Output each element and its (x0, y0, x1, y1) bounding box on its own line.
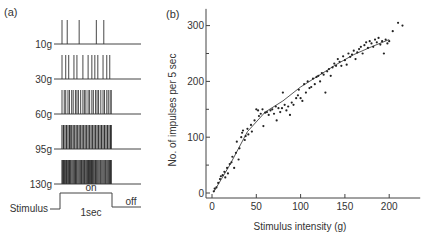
x-tick-label: 50 (251, 201, 263, 212)
data-point (376, 41, 378, 43)
data-point (330, 75, 332, 77)
data-point (385, 38, 387, 40)
x-axis-label: Stimulus intensity (g) (254, 221, 347, 232)
fit-line-group (214, 40, 389, 192)
scatter-points (213, 22, 404, 193)
data-point (370, 42, 372, 44)
data-point (282, 91, 284, 93)
data-point (314, 83, 316, 85)
data-point (369, 40, 371, 42)
data-point (337, 58, 339, 60)
data-point (298, 89, 300, 91)
data-point (261, 108, 263, 110)
data-point (237, 158, 239, 160)
data-point (360, 46, 362, 48)
data-point (333, 62, 335, 64)
data-point (223, 171, 225, 173)
data-point (246, 128, 248, 130)
data-point (236, 141, 238, 143)
data-point (379, 43, 381, 45)
data-point (268, 114, 270, 116)
data-point (312, 78, 314, 80)
data-point (271, 108, 273, 110)
data-point (335, 65, 337, 67)
data-point (297, 94, 299, 96)
data-point (305, 91, 307, 93)
data-point (291, 102, 293, 104)
data-point (319, 80, 321, 82)
panel-a-label: (a) (4, 6, 17, 18)
data-point (231, 156, 233, 158)
y-axis-label: No. of impulses per 5 sec (167, 54, 178, 167)
data-point (289, 114, 291, 116)
off-label: off (126, 196, 137, 207)
data-point (344, 59, 346, 61)
data-point (349, 56, 351, 58)
data-point (338, 61, 340, 63)
y-tick-label: 100 (187, 132, 204, 143)
data-point (230, 161, 232, 163)
data-point (279, 111, 281, 113)
spike-train-95g: 95g (35, 125, 141, 155)
train-label: 10g (35, 39, 52, 50)
data-point (273, 113, 275, 115)
data-point (277, 107, 279, 109)
fit-line (214, 40, 389, 192)
data-point (213, 190, 215, 192)
data-point (253, 119, 255, 121)
data-point (342, 55, 344, 57)
data-point (392, 30, 394, 32)
data-point (317, 75, 319, 77)
data-point (307, 80, 309, 82)
data-point (258, 115, 260, 117)
data-point (284, 104, 286, 106)
data-point (347, 52, 349, 54)
data-point (227, 172, 229, 174)
panel-b-label: (b) (166, 8, 179, 20)
on-label: on (85, 182, 96, 193)
data-point (326, 70, 328, 72)
data-point (300, 97, 302, 99)
data-point (303, 83, 305, 85)
spike-trains: 10g30g60g95g130g (30, 20, 141, 190)
train-label: 95g (35, 144, 52, 155)
data-point (372, 46, 374, 48)
data-point (295, 97, 297, 99)
data-point (386, 42, 388, 44)
y-tick-label: 200 (187, 76, 204, 87)
data-point (245, 135, 247, 137)
duration-label: 1sec (80, 207, 101, 218)
data-point (301, 100, 303, 102)
data-point (365, 41, 367, 43)
data-point (257, 109, 259, 111)
data-point (353, 50, 355, 52)
train-label: 60g (35, 109, 52, 120)
data-point (383, 52, 385, 54)
data-point (251, 131, 253, 133)
data-point (240, 136, 242, 138)
data-point (275, 105, 277, 107)
data-point (229, 163, 231, 165)
data-point (215, 186, 217, 188)
data-point (310, 86, 312, 88)
data-point (401, 25, 403, 27)
spike-train-10g: 10g (35, 20, 141, 50)
spike-train-30g: 30g (35, 55, 141, 85)
data-point (356, 51, 358, 53)
data-point (235, 152, 237, 154)
data-point (287, 105, 289, 107)
data-point (244, 139, 246, 141)
data-point (219, 178, 221, 180)
data-point (351, 54, 353, 56)
x-tick-label: 0 (209, 201, 215, 212)
data-point (377, 37, 379, 39)
data-point (266, 111, 268, 113)
data-point (324, 91, 326, 93)
data-point (367, 47, 369, 49)
y-tick-label: 0 (198, 188, 204, 199)
data-point (222, 174, 224, 176)
data-point (260, 113, 262, 115)
data-point (285, 109, 287, 111)
data-point (217, 182, 219, 184)
y-tick-label: 300 (187, 20, 204, 31)
